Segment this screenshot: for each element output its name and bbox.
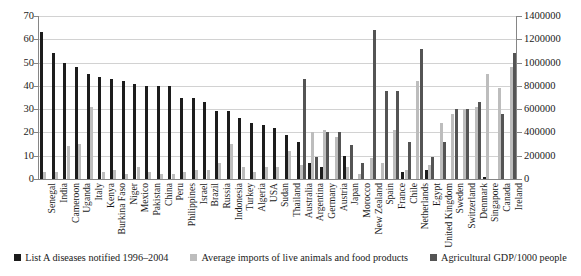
x-axis-tick-label: Morocco: [362, 183, 372, 218]
y-axis-right-tick-label: 600000: [524, 104, 581, 114]
bar: [218, 163, 221, 179]
y-axis-right-tick: [517, 179, 522, 180]
bar: [43, 172, 46, 179]
x-axis-tick-label: Japan: [350, 183, 360, 205]
x-axis-tick-label: Egypt: [432, 183, 442, 206]
bar-group: [237, 16, 249, 179]
x-axis-tick-label: Burkina Faso: [117, 183, 127, 234]
bar-group: [459, 16, 471, 179]
chart-container: 010203040506070 020000040000060000080000…: [0, 0, 581, 276]
bar: [195, 170, 198, 179]
bar-group: [179, 16, 191, 179]
bar: [326, 132, 329, 179]
y-axis-right-tick-label: 1000000: [524, 58, 581, 68]
bar: [78, 144, 81, 179]
y-axis-right-tick: [517, 39, 522, 40]
bar-group: [132, 16, 144, 179]
x-axis-tick-label: Chile: [409, 183, 419, 204]
bar-group: [156, 16, 168, 179]
bar: [265, 167, 268, 179]
x-axis-tick-label: Spain: [385, 183, 395, 205]
bar-group: [494, 16, 506, 179]
x-axis-tick-label: China: [164, 183, 174, 206]
y-axis-left-tick: [33, 39, 38, 40]
y-axis-left-tick-label: 50: [4, 58, 34, 68]
x-axis-tick-label: Peru: [175, 183, 185, 201]
y-axis-left-tick-label: 20: [4, 127, 34, 137]
bar: [250, 123, 253, 179]
bar-group: [272, 16, 284, 179]
x-axis-tick-label: Sudan: [280, 183, 290, 207]
bar: [361, 163, 364, 179]
x-axis-tick-label: Algeria: [257, 183, 267, 212]
x-axis-tick-label: Russia: [222, 183, 232, 209]
bar-group: [97, 16, 109, 179]
bar: [486, 74, 489, 179]
y-axis-right-tick-label: 400000: [524, 127, 581, 137]
bar-group: [319, 16, 331, 179]
y-axis-right-tick-label: 0: [524, 174, 581, 184]
y-axis-left-tick-label: 30: [4, 104, 34, 114]
bar: [276, 167, 279, 179]
x-axis-tick-label: Brazil: [210, 183, 220, 206]
bar-group: [389, 16, 401, 179]
bar: [133, 84, 136, 179]
bar: [110, 79, 113, 179]
y-axis-right-tick-label: 1200000: [524, 34, 581, 44]
legend-item[interactable]: Agricultural GDP/1000 people: [430, 252, 567, 263]
y-axis-left-tick: [33, 156, 38, 157]
bar: [253, 172, 256, 179]
bar-group: [400, 16, 412, 179]
bar: [148, 172, 151, 179]
legend-label: Average imports of live animals and food…: [201, 252, 408, 263]
bar: [443, 142, 446, 179]
bar: [90, 107, 93, 179]
bar: [203, 102, 206, 179]
legend-swatch-icon: [430, 254, 437, 261]
bar: [288, 151, 291, 179]
legend-label: List A diseases notified 1996–2004: [25, 252, 168, 263]
x-axis-tick-label: Australia: [304, 183, 314, 218]
bar: [125, 174, 128, 179]
plot-area: [38, 16, 517, 180]
x-axis-tick-label: Niger: [129, 183, 139, 205]
y-axis-right-tick: [517, 109, 522, 110]
legend-swatch-icon: [14, 254, 21, 261]
legend-item[interactable]: Average imports of live animals and food…: [190, 252, 408, 263]
bar-group: [424, 16, 436, 179]
bar-group: [295, 16, 307, 179]
bar: [408, 142, 411, 179]
bar: [192, 98, 195, 180]
y-axis-left-tick: [33, 109, 38, 110]
legend-item[interactable]: List A diseases notified 1996–2004: [14, 252, 168, 263]
x-axis-tick-label: USA: [269, 183, 279, 202]
legend-label: Agricultural GDP/1000 people: [441, 252, 567, 263]
bar: [396, 91, 399, 179]
legend-swatch-icon: [190, 254, 197, 261]
x-axis-tick-label: New Zealand: [374, 183, 384, 234]
y-axis-right-tick: [517, 63, 522, 64]
y-axis-left-tick-label: 10: [4, 151, 34, 161]
bar: [55, 172, 58, 179]
bar-group: [412, 16, 424, 179]
bar-group: [470, 16, 482, 179]
x-axis-tick-label: Ireland: [514, 183, 524, 210]
y-axis-left-tick: [33, 63, 38, 64]
x-axis-tick-label: France: [397, 183, 407, 209]
x-axis-tick-label: Sweden: [455, 183, 465, 213]
y-axis-right-tick-label: 800000: [524, 81, 581, 91]
bar-group: [377, 16, 389, 179]
x-axis-tick-label: Uganda: [82, 183, 92, 213]
bar: [315, 157, 318, 179]
bar: [478, 102, 481, 179]
x-axis-tick-label: Cameroon: [71, 183, 81, 223]
bar: [67, 146, 70, 179]
x-axis-tick-label: Israel: [199, 183, 209, 204]
bar-group: [365, 16, 377, 179]
x-axis-tick-label: Switzerland: [467, 183, 477, 229]
bar-group: [307, 16, 319, 179]
bar-group: [62, 16, 74, 179]
bar: [183, 172, 186, 179]
bar: [431, 157, 434, 179]
x-axis-tick-label: Indonesia: [234, 183, 244, 220]
